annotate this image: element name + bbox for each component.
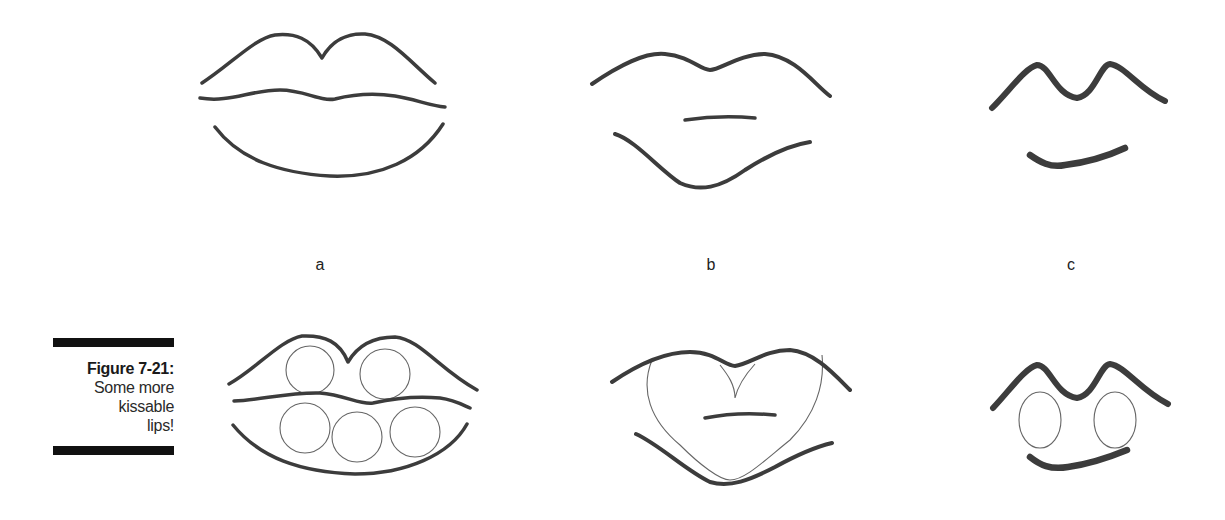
lips-c-drawing <box>992 64 1165 166</box>
caption-top-rule <box>53 338 174 347</box>
panel-label-b: b <box>707 256 716 274</box>
caption-line-1: Some more <box>53 378 174 397</box>
caption-line-2: kissable <box>53 397 174 416</box>
caption-bottom-rule <box>53 446 174 455</box>
lips-b-construction <box>612 350 850 484</box>
figure-drawings <box>0 0 1225 520</box>
lips-b-drawing <box>592 54 830 188</box>
lips-c-construction <box>993 364 1168 468</box>
figure-number: Figure 7-21: <box>53 359 174 378</box>
lips-a-construction <box>229 336 477 474</box>
caption-line-3: lips! <box>53 416 174 435</box>
lips-a-drawing <box>200 34 445 176</box>
figure-caption: Figure 7-21: Some more kissable lips! <box>53 338 174 455</box>
panel-label-a: a <box>316 256 325 274</box>
panel-label-c: c <box>1067 256 1075 274</box>
